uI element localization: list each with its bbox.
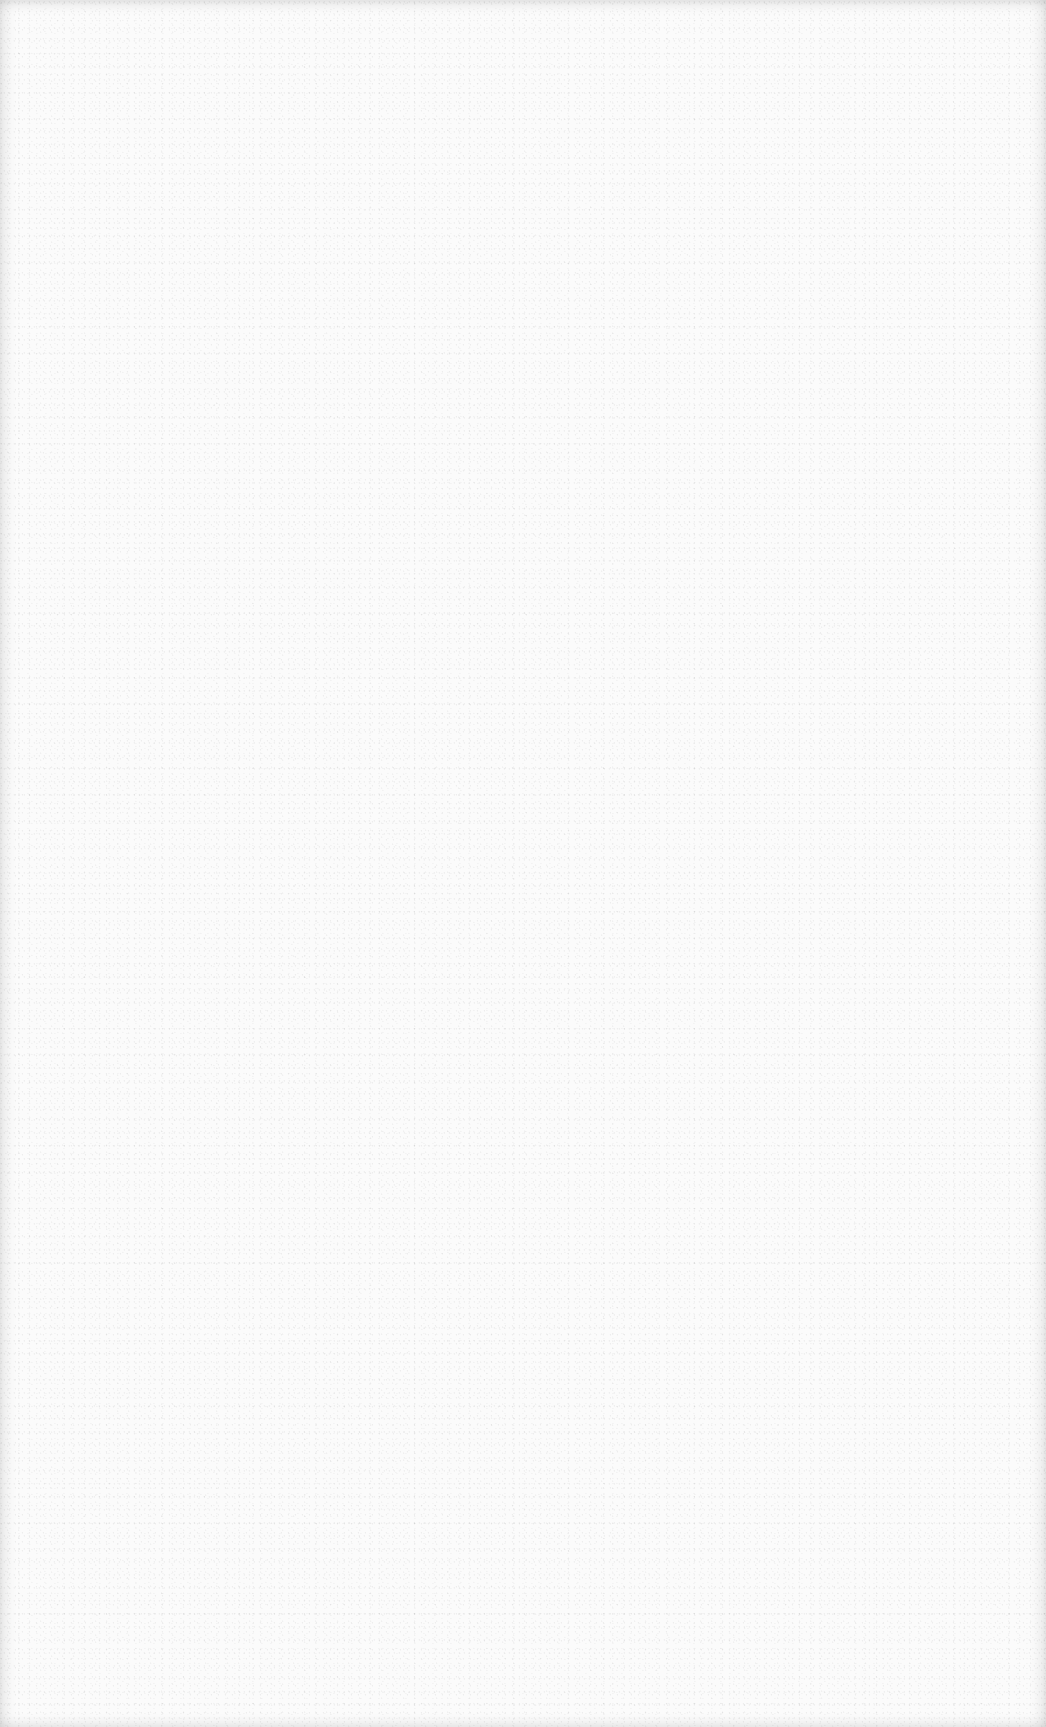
paper-texture: [0, 0, 1046, 1727]
page-edge-shading: [0, 0, 1046, 1727]
blank-page: [0, 0, 1046, 1727]
